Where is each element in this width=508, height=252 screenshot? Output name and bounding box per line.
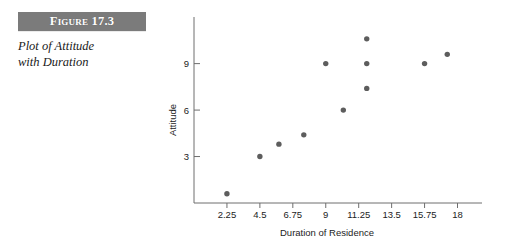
x-tick-label: 15.75	[413, 209, 437, 220]
figure-page: Figure 17.3 Plot of Attitude with Durati…	[0, 0, 508, 252]
data-point	[323, 61, 328, 66]
data-point	[341, 107, 346, 112]
plot-ticks	[194, 64, 458, 208]
data-point	[364, 61, 369, 66]
data-point	[257, 154, 262, 159]
x-tick-label: 13.5	[382, 209, 401, 220]
data-point	[301, 132, 306, 137]
data-point	[224, 191, 229, 196]
plot-axes	[194, 17, 482, 203]
y-axis-title: Attitude	[167, 104, 178, 136]
data-point	[276, 141, 281, 146]
x-tick-label: 2.25	[218, 209, 237, 220]
x-tick-label: 11.25	[347, 209, 370, 220]
x-tick-label: 6.75	[284, 209, 303, 220]
scatter-plot-canvas: 2.254.56.75911.2513.515.7518369 Duration…	[0, 0, 508, 252]
y-tick-label: 9	[184, 58, 189, 69]
scatter-plot: 2.254.56.75911.2513.515.7518369 Duration…	[0, 0, 508, 252]
y-tick-label: 6	[184, 105, 189, 116]
x-axis-title: Duration of Residence	[280, 227, 374, 238]
data-point	[422, 61, 427, 66]
x-tick-label: 9	[323, 209, 328, 220]
y-tick-label: 3	[184, 151, 189, 162]
x-tick-label: 4.5	[253, 209, 266, 220]
data-point	[445, 52, 450, 57]
x-tick-label: 18	[452, 209, 463, 220]
plot-data-points	[224, 36, 450, 196]
data-point	[364, 86, 369, 91]
data-point	[364, 36, 369, 41]
